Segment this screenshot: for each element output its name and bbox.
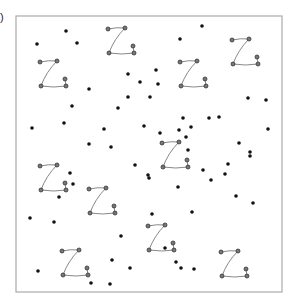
z-shape [60, 248, 90, 277]
z-shape [219, 249, 249, 278]
z-shape [230, 37, 260, 66]
dot [110, 258, 114, 262]
dot [142, 124, 146, 128]
dot [248, 150, 252, 154]
dot [87, 87, 91, 91]
dot [154, 68, 158, 72]
z-shape [38, 59, 68, 88]
dot [176, 185, 180, 189]
dot [126, 72, 130, 76]
dot [35, 42, 39, 46]
dot [28, 216, 32, 220]
dot [36, 269, 40, 273]
dot [266, 127, 270, 131]
z-shape [106, 26, 136, 55]
z-shape [38, 163, 68, 192]
dot [251, 201, 255, 205]
dot [89, 281, 93, 285]
dot [246, 96, 250, 100]
dot [163, 246, 167, 250]
dot [181, 116, 185, 120]
dot [30, 126, 34, 130]
dot [200, 24, 204, 28]
dot [102, 127, 106, 131]
dot [62, 121, 66, 125]
dot [177, 128, 181, 132]
dot [186, 148, 190, 152]
dot [192, 267, 196, 271]
dot [184, 135, 188, 139]
dot [64, 29, 68, 33]
dot [133, 163, 137, 167]
dot [248, 154, 252, 158]
dot-z-diagram [0, 0, 294, 304]
z-shape [160, 140, 190, 169]
z-shape [178, 59, 208, 88]
dot [201, 168, 205, 172]
dot [128, 266, 132, 270]
dot [217, 115, 221, 119]
dot [209, 178, 213, 182]
dot [190, 210, 194, 214]
dot [119, 234, 123, 238]
dot [174, 260, 178, 264]
dot [150, 212, 154, 216]
dot [189, 125, 193, 129]
z-shape [146, 223, 176, 252]
dot [109, 145, 113, 149]
dot [138, 80, 142, 84]
dot [87, 142, 91, 146]
dot [237, 141, 241, 145]
dot [234, 194, 238, 198]
dot [52, 220, 56, 224]
dot [75, 41, 79, 45]
z-shape [87, 186, 117, 215]
dot [71, 182, 75, 186]
dot [68, 171, 72, 175]
dot [126, 95, 130, 99]
dot [116, 106, 120, 110]
dot [57, 195, 61, 199]
dot [158, 131, 162, 135]
dot [223, 172, 227, 176]
dot [108, 282, 112, 286]
dot [148, 95, 152, 99]
dot [226, 162, 230, 166]
dot [264, 98, 268, 102]
dot [178, 37, 182, 41]
z-shapes [38, 26, 260, 278]
dot [156, 82, 160, 86]
dot [207, 116, 211, 120]
dot [179, 266, 183, 270]
dot [70, 104, 74, 108]
dot [147, 176, 151, 180]
